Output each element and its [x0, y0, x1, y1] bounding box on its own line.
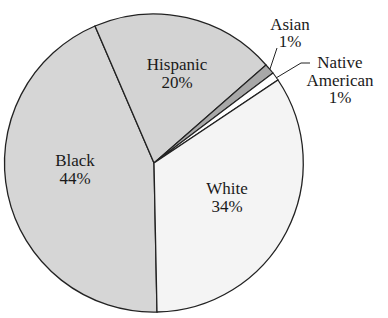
label-black-value: 44% — [59, 169, 90, 188]
label-white-name: White — [206, 179, 248, 198]
label-native-name-1: Native — [317, 53, 362, 72]
label-white-value: 34% — [211, 197, 242, 216]
native-leader-line — [276, 63, 310, 78]
pie-chart: Hispanic 20% Black 44% White 34% Asian 1… — [0, 0, 388, 318]
label-native-value: 1% — [329, 88, 352, 107]
label-black-name: Black — [55, 151, 95, 170]
label-hispanic-name: Hispanic — [147, 55, 208, 74]
label-hispanic-value: 20% — [161, 73, 192, 92]
label-asian-value: 1% — [279, 32, 302, 51]
asian-leader-line — [270, 48, 277, 69]
